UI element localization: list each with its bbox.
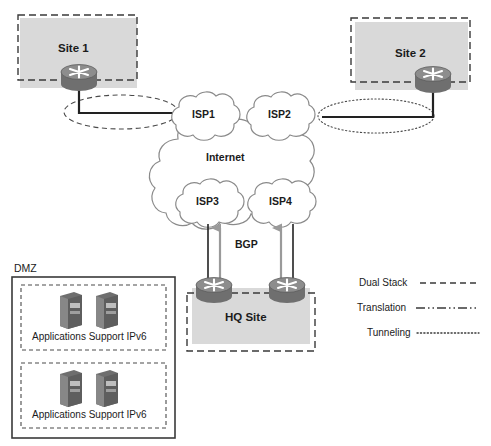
server-icon (96, 370, 118, 407)
diagram-vector-layer (0, 0, 491, 446)
legend-label-tunneling: Tunneling (367, 328, 411, 338)
dmz-label: DMZ (14, 263, 37, 274)
isp3-label: ISP3 (196, 196, 219, 207)
link-site2-to-isp2 (322, 86, 433, 117)
network-diagram-canvas: Site 1 Site 2 ISP1 ISP2 Internet ISP3 IS… (0, 0, 491, 446)
internet-label: Internet (206, 152, 245, 163)
router-hq-left (196, 278, 232, 304)
site2-label: Site 2 (395, 48, 426, 60)
server-icon (60, 370, 82, 407)
router-site2 (415, 67, 451, 94)
isp2-label: ISP2 (268, 109, 291, 120)
site1-label: Site 1 (58, 43, 89, 55)
isp1-label: ISP1 (192, 109, 215, 120)
router-site1 (61, 65, 97, 92)
legend-label-translation: Translation (357, 303, 406, 313)
link-site1-to-isp1 (79, 84, 186, 113)
hq-site-label: HQ Site (225, 312, 267, 324)
legend-lines (416, 283, 479, 333)
router-hq-right (269, 278, 305, 304)
legend-label-dual-stack: Dual Stack (359, 278, 407, 288)
server-group-2 (60, 370, 118, 407)
bgp-label: BGP (235, 239, 258, 250)
dmz-group-2-label: Applications Support IPv6 (32, 410, 147, 420)
bgp-links (208, 224, 293, 282)
server-group-1 (60, 292, 118, 329)
server-icon (96, 292, 118, 329)
dmz-group-1-label: Applications Support IPv6 (32, 332, 147, 342)
server-icon (60, 292, 82, 329)
isp4-label: ISP4 (269, 196, 292, 207)
